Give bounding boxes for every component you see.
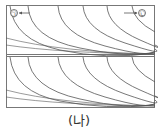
svg-text:㉡: ㉡ — [139, 10, 145, 18]
label-left: ㉠ — [11, 10, 31, 18]
diagram-figure: ㉠ ㉡ — [0, 0, 158, 112]
lower-panel-curves — [6, 57, 158, 107]
label-right: ㉡ — [124, 10, 146, 18]
svg-text:㉠: ㉠ — [11, 10, 17, 18]
frame — [6, 6, 155, 108]
figure-caption: (나) — [0, 112, 158, 130]
